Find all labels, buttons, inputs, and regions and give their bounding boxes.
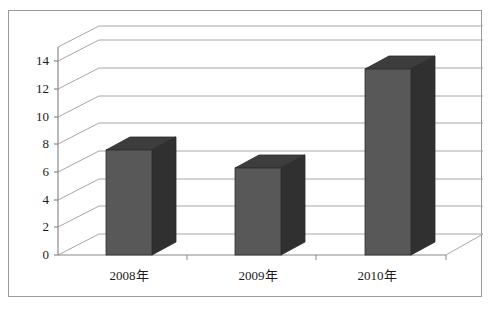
- chart-plot-area: 14 12 10 8 6 4 2 0: [9, 11, 483, 298]
- bar-2010-3d-faces: [9, 11, 483, 298]
- chart-frame: 14 12 10 8 6 4 2 0: [8, 10, 482, 297]
- chart-screenshot: 14 12 10 8 6 4 2 0: [0, 0, 490, 310]
- x-category-label-2010: 2010年: [332, 269, 422, 283]
- x-category-label-2009: 2009年: [213, 269, 303, 283]
- x-category-label-2008: 2008年: [84, 269, 174, 283]
